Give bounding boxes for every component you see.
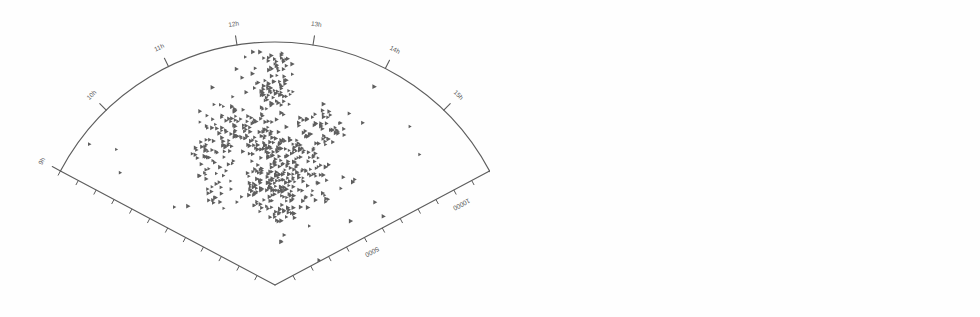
- angular-tick: [385, 60, 389, 68]
- galaxy-marker: [275, 117, 279, 121]
- galaxy-marker: [230, 132, 234, 136]
- galaxy-marker: [325, 178, 329, 182]
- galaxy-marker: [314, 198, 318, 203]
- galaxy-marker: [302, 179, 306, 183]
- galaxy-marker: [259, 202, 263, 207]
- galaxy-marker: [191, 152, 194, 156]
- galaxy-marker: [321, 173, 325, 178]
- cone-edge-right: [275, 171, 490, 285]
- galaxy-marker: [277, 69, 281, 73]
- radial-tick: [237, 266, 239, 271]
- galaxy-marker: [340, 187, 343, 191]
- galaxy-marker: [205, 138, 208, 142]
- galaxy-marker: [348, 111, 352, 115]
- velocity-tick-label: 10000: [452, 197, 472, 212]
- galaxy-marker: [223, 155, 226, 159]
- galaxy-marker: [282, 99, 286, 103]
- galaxy-marker: [249, 185, 252, 188]
- galaxy-marker: [245, 124, 249, 128]
- galaxy-marker: [212, 139, 216, 144]
- galaxy-marker: [311, 193, 314, 197]
- galaxy-marker: [269, 182, 273, 186]
- galaxy-marker: [253, 204, 256, 208]
- galaxy-marker: [265, 107, 268, 111]
- galaxy-marker: [227, 139, 230, 143]
- galaxy-marker: [287, 89, 290, 92]
- galaxy-marker: [306, 205, 310, 210]
- galaxy-marker: [219, 103, 222, 107]
- angular-tick: [52, 167, 60, 171]
- galaxy-marker: [246, 171, 250, 175]
- radial-tick: [400, 218, 402, 223]
- galaxy-marker: [241, 76, 245, 80]
- angular-tick: [236, 36, 237, 45]
- galaxy-marker: [206, 126, 209, 130]
- galaxy-marker: [211, 185, 214, 189]
- galaxy-marker: [236, 200, 239, 204]
- galaxy-marker: [207, 198, 211, 202]
- galaxy-marker: [322, 112, 325, 116]
- galaxy-marker: [325, 121, 329, 125]
- galaxy-marker: [292, 172, 295, 176]
- galaxy-marker: [270, 163, 273, 166]
- galaxy-marker: [200, 162, 204, 166]
- galaxy-marker: [278, 154, 282, 158]
- radial-tick: [436, 199, 438, 204]
- galaxy-marker: [272, 79, 276, 84]
- angular-tick: [100, 104, 106, 111]
- galaxy-marker: [196, 156, 200, 160]
- galaxy-marker: [291, 72, 294, 76]
- galaxy-marker: [321, 108, 325, 112]
- angular-tick: [444, 104, 450, 111]
- angular-tick: [164, 58, 168, 66]
- galaxy-marker: [361, 121, 365, 125]
- galaxy-marker: [256, 163, 260, 167]
- galaxy-marker: [270, 74, 274, 79]
- galaxy-marker: [349, 219, 353, 224]
- galaxy-marker: [418, 153, 421, 157]
- galaxy-marker: [248, 126, 252, 130]
- galaxy-marker: [270, 188, 274, 193]
- radial-tick: [418, 209, 420, 214]
- galaxy-marker: [327, 163, 331, 167]
- galaxy-marker: [264, 79, 267, 83]
- galaxy-marker: [173, 205, 176, 209]
- galaxy-marker: [198, 109, 202, 113]
- galaxy-marker: [264, 134, 268, 138]
- galaxy-marker: [272, 96, 275, 100]
- cone-plot-right: 9h10h11h12h13h14h15h16h500010000: [490, 0, 980, 317]
- radial-tick: [76, 180, 78, 185]
- galaxy-marker: [259, 156, 263, 160]
- galaxy-marker: [272, 150, 276, 154]
- galaxy-points-left: [88, 50, 421, 263]
- galaxy-marker: [297, 175, 301, 180]
- galaxy-marker: [206, 114, 209, 118]
- galaxy-marker: [372, 84, 377, 89]
- galaxy-marker: [222, 105, 225, 108]
- galaxy-marker: [271, 170, 274, 174]
- galaxy-marker: [292, 151, 295, 155]
- galaxy-marker: [323, 194, 326, 197]
- galaxy-marker: [208, 167, 211, 171]
- galaxy-marker: [308, 224, 311, 228]
- galaxy-marker: [248, 129, 252, 134]
- galaxy-marker: [220, 135, 224, 140]
- galaxy-marker: [253, 136, 256, 140]
- galaxy-marker: [210, 125, 214, 130]
- galaxy-marker: [288, 103, 291, 107]
- galaxy-marker: [220, 129, 223, 132]
- galaxy-marker: [227, 162, 231, 166]
- galaxy-marker: [269, 215, 273, 219]
- galaxy-marker: [223, 149, 227, 153]
- galaxy-marker: [282, 195, 285, 199]
- galaxy-marker: [218, 180, 222, 184]
- galaxy-marker: [204, 173, 207, 176]
- galaxy-marker: [285, 125, 289, 130]
- galaxy-marker: [247, 193, 251, 198]
- galaxy-marker: [285, 199, 288, 202]
- galaxy-marker: [279, 218, 283, 223]
- galaxy-marker: [314, 151, 318, 156]
- galaxy-marker: [88, 142, 92, 146]
- galaxy-marker: [251, 50, 255, 55]
- galaxy-marker: [229, 179, 232, 182]
